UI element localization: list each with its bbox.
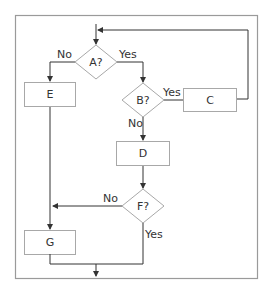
node-b-label: B? [136,94,150,107]
edge-a-to-b [117,62,143,82]
edge-a-to-e [50,62,75,81]
node-c-label: C [206,94,214,107]
edge-label-b-no: No [128,117,143,130]
node-g-label: G [46,236,55,249]
edge-label-b-yes: Yes [162,86,181,99]
node-a-label: A? [89,56,103,69]
node-d-label: D [139,147,147,160]
node-f-label: F? [137,200,149,213]
edge-label-a-no: No [57,48,72,61]
edge-label-a-yes: Yes [118,48,137,61]
edge-label-f-no: No [103,192,118,205]
node-e-label: E [47,88,54,101]
flowchart-diagram: A? No Yes E B? Yes C No D F? No G Yes [0,0,269,302]
edge-label-f-yes: Yes [144,228,163,241]
